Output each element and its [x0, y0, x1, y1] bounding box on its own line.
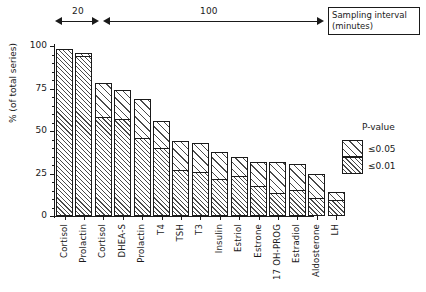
y-tick-label: 0 — [41, 210, 47, 220]
x-tick — [200, 216, 201, 220]
arrow-head-right-long — [317, 17, 324, 25]
bar-segment-p001 — [134, 138, 151, 216]
y-tick-major — [50, 46, 54, 47]
legend-swatch-p001 — [342, 157, 363, 174]
bar-t4 — [153, 121, 170, 216]
bar-estradiol — [289, 164, 306, 216]
bar-segment-p001 — [308, 198, 325, 216]
y-tick-minor — [52, 182, 55, 183]
x-axis-label: T3 — [195, 224, 204, 235]
x-axis-label: LH — [331, 224, 340, 236]
bar-segment-p001 — [250, 186, 267, 216]
y-tick-minor — [52, 191, 55, 192]
bar-segment-p005 — [211, 152, 228, 179]
bar-segment-p005 — [289, 164, 306, 191]
x-axis-label: TSH — [176, 224, 185, 242]
figure-root: 20 100 Sampling interval (minutes) % (of… — [0, 0, 426, 292]
bar-segment-p005 — [172, 141, 189, 171]
sampling-interval-caption-line2: (minutes) — [332, 21, 416, 32]
x-tick — [181, 216, 182, 220]
interval-label-long: 100 — [200, 6, 218, 16]
bar-segment-p005 — [95, 83, 112, 118]
bar-segment-p001 — [192, 172, 209, 216]
x-axis-label: Cortisol — [98, 224, 107, 258]
x-tick — [103, 216, 104, 220]
sampling-interval-caption-line1: Sampling interval — [332, 10, 416, 21]
y-tick-minor — [52, 97, 55, 98]
bar-aldosterone — [308, 174, 325, 217]
bar-segment-p001 — [231, 176, 248, 216]
bar-prolactin — [134, 99, 151, 216]
bar-lh — [328, 192, 345, 216]
legend-swatch-p005 — [342, 140, 363, 157]
bar-17-oh-prog — [269, 162, 286, 216]
arrow-line-short — [61, 21, 93, 22]
y-tick-minor — [52, 106, 55, 107]
y-tick-minor — [52, 72, 55, 73]
x-tick — [65, 216, 66, 220]
y-tick-minor — [52, 148, 55, 149]
legend-label-p005: ≤0.05 — [368, 144, 396, 154]
y-tick-label: 25 — [36, 168, 47, 178]
bar-segment-p005 — [134, 99, 151, 139]
bar-segment-p001 — [95, 117, 112, 216]
x-axis-label: Cortisol — [60, 224, 69, 258]
y-tick-minor — [52, 208, 55, 209]
interval-label-short: 20 — [72, 6, 84, 16]
y-tick-minor — [52, 199, 55, 200]
x-axis-label: Prolactin — [79, 224, 88, 263]
x-tick — [336, 216, 337, 220]
x-axis-line — [54, 216, 314, 217]
sampling-interval-band: 20 100 Sampling interval (minutes) — [0, 0, 426, 42]
bar-cortisol — [95, 83, 112, 216]
bar-segment-p001 — [172, 170, 189, 216]
y-tick-minor — [52, 157, 55, 158]
x-axis-label: Insulin — [215, 224, 224, 253]
x-tick — [259, 216, 260, 220]
x-axis-label: DHEA-S — [118, 224, 127, 258]
bar-segment-p001 — [211, 179, 228, 216]
bar-segment-p001 — [289, 190, 306, 216]
x-axis-label: Estrone — [254, 224, 263, 258]
bar-segment-p005 — [308, 174, 325, 200]
x-axis-label: Aldosterone — [312, 224, 321, 277]
legend-title: P-value — [362, 122, 395, 132]
x-axis-label: Estradiol — [292, 224, 301, 263]
arrow-line-long — [109, 21, 318, 22]
x-tick — [297, 216, 298, 220]
y-tick-minor — [52, 140, 55, 141]
y-tick-minor — [52, 114, 55, 115]
bar-segment-p001 — [153, 148, 170, 216]
bar-tsh — [172, 141, 189, 216]
y-tick-label: 75 — [36, 83, 47, 93]
bar-segment-p005 — [231, 157, 248, 177]
y-tick-major — [50, 131, 54, 132]
bar-segment-p001 — [114, 119, 131, 216]
y-tick-minor — [52, 123, 55, 124]
bar-estriol — [231, 157, 248, 216]
sampling-interval-caption-box: Sampling interval (minutes) — [328, 7, 420, 35]
legend-label-p001: ≤0.01 — [368, 161, 396, 171]
bar-segment-p005 — [114, 90, 131, 120]
bar-insulin — [211, 152, 228, 216]
bar-t3 — [192, 143, 209, 216]
y-tick-major — [50, 89, 54, 90]
bar-segment-p001 — [328, 200, 345, 216]
x-axis-label: Prolactin — [137, 224, 146, 263]
y-axis-line — [54, 44, 55, 218]
bar-prolactin — [75, 53, 92, 216]
y-tick-label: 100 — [30, 40, 47, 50]
y-tick-major — [50, 174, 54, 175]
bar-segment-p005 — [269, 162, 286, 194]
x-tick — [220, 216, 221, 220]
x-tick — [239, 216, 240, 220]
bar-segment-p001 — [75, 56, 92, 216]
x-tick — [278, 216, 279, 220]
bar-segment-p001 — [56, 49, 73, 216]
arrow-head-right-short — [92, 17, 99, 25]
x-tick — [84, 216, 85, 220]
bar-segment-p005 — [192, 143, 209, 173]
x-tick — [142, 216, 143, 220]
bar-dhea-s — [114, 90, 131, 216]
bar-segment-p001 — [269, 193, 286, 216]
